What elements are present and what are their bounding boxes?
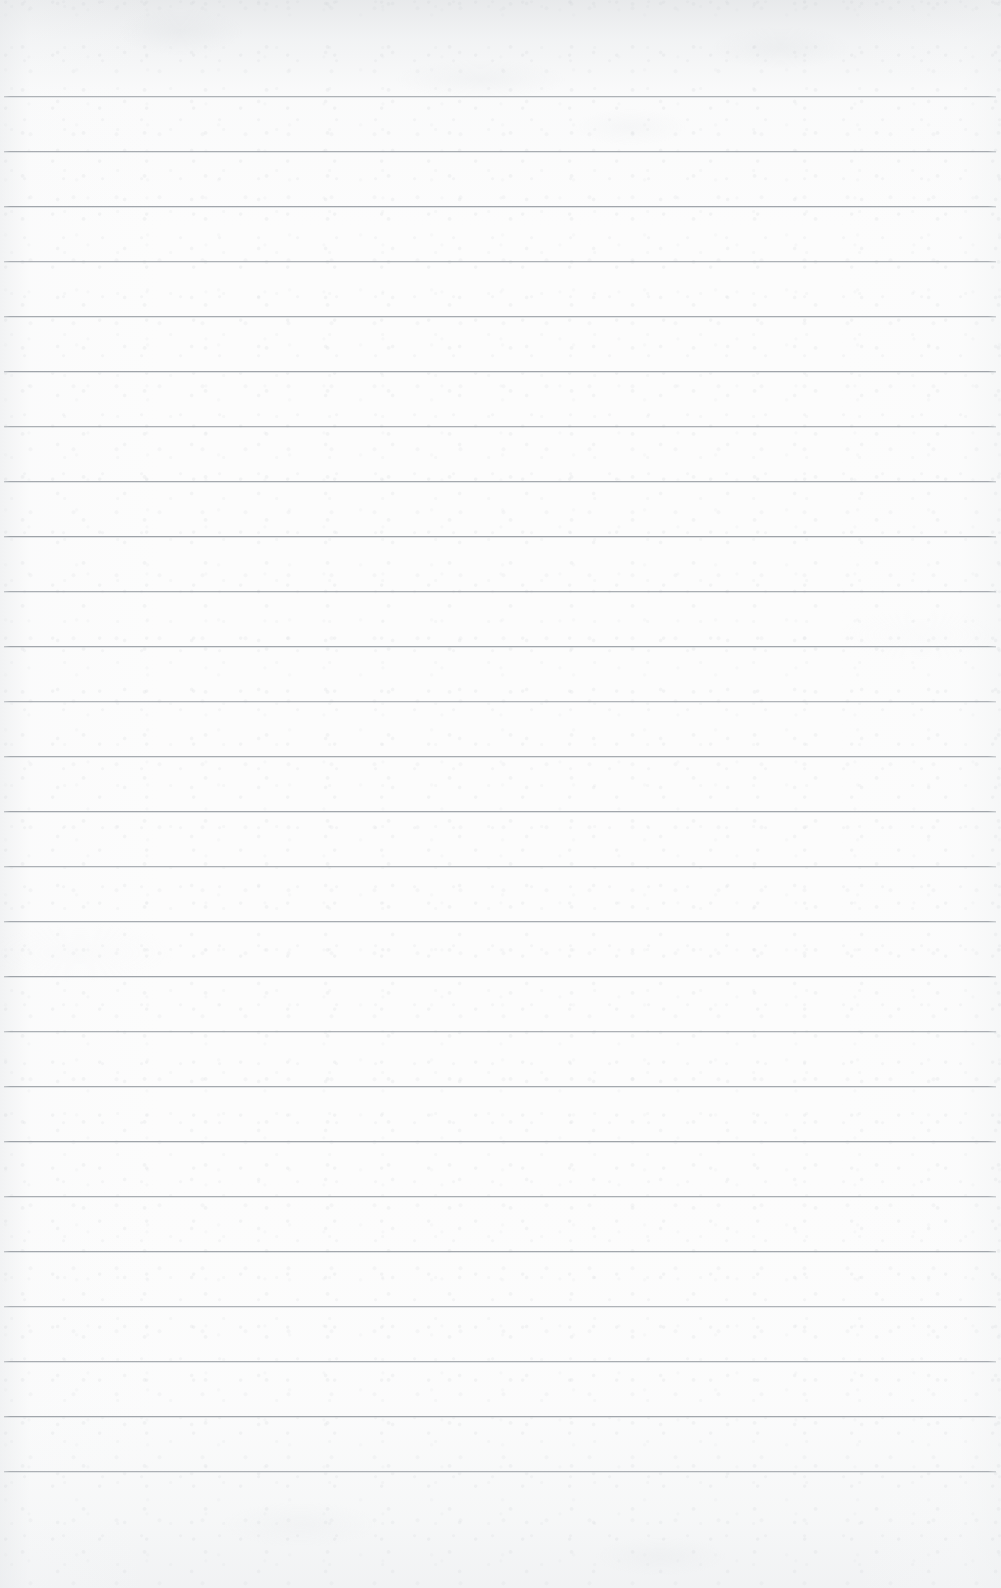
notebook-page xyxy=(0,0,1001,1588)
paper-background xyxy=(0,0,1001,1588)
